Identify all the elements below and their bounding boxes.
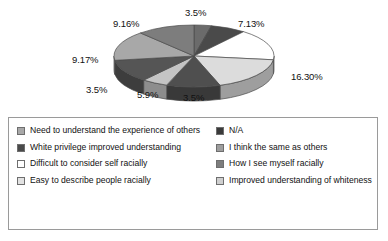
legend-item-label: Need to understand the experience of oth… (30, 125, 200, 136)
legend-item-label: Difficult to consider self racially (30, 158, 147, 169)
pie-value-label-6: 9.17% (72, 54, 98, 65)
pie-value-label-1: 7.13% (238, 18, 264, 29)
legend-swatch-icon (17, 144, 25, 152)
legend-swatch-icon (216, 144, 224, 152)
legend-swatch-icon (17, 160, 25, 168)
pie-chart-plot-area: 3.5%7.13%16.30%3.5%5.9%3.5%9.17%9.16% (0, 0, 388, 113)
legend-item[interactable]: How I see myself racially (216, 158, 376, 169)
legend-column-left: Need to understand the experience of oth… (17, 125, 212, 191)
legend-item[interactable]: Difficult to consider self racially (17, 158, 212, 169)
legend-item[interactable]: Easy to describe people racially (17, 175, 212, 186)
legend-item[interactable]: N/A (216, 125, 376, 136)
legend-item-label: White privilege improved understanding (30, 142, 181, 153)
legend-column-right: N/AI think the same as othersHow I see m… (216, 125, 376, 191)
pie-top-group (114, 25, 274, 87)
legend-item[interactable]: White privilege improved understanding (17, 142, 212, 153)
legend-item[interactable]: Improved understanding of whiteness (216, 175, 376, 186)
chart-legend: Need to understand the experience of oth… (8, 117, 378, 230)
legend-swatch-icon (216, 177, 224, 185)
legend-item-label: Easy to describe people racially (30, 175, 151, 186)
legend-item-label: Improved understanding of whiteness (229, 175, 372, 186)
legend-swatch-icon (17, 127, 25, 135)
legend-swatch-icon (17, 177, 25, 185)
legend-item[interactable]: Need to understand the experience of oth… (17, 125, 212, 136)
legend-item-label: How I see myself racially (229, 158, 324, 169)
pie-value-label-2: 16.30% (291, 71, 323, 82)
legend-swatch-icon (216, 160, 224, 168)
legend-item-label: I think the same as others (229, 142, 327, 153)
legend-item-label: N/A (229, 125, 243, 136)
pie-value-label-4: 5.9% (137, 89, 158, 100)
pie-value-label-3: 3.5% (183, 92, 204, 103)
legend-swatch-icon (216, 127, 224, 135)
pie-chart-figure: 3.5%7.13%16.30%3.5%5.9%3.5%9.17%9.16% Ne… (0, 0, 388, 241)
pie-value-label-7: 9.16% (113, 18, 139, 29)
pie-value-label-0: 3.5% (185, 7, 206, 18)
legend-item[interactable]: I think the same as others (216, 142, 376, 153)
pie-value-label-5: 3.5% (86, 84, 107, 95)
